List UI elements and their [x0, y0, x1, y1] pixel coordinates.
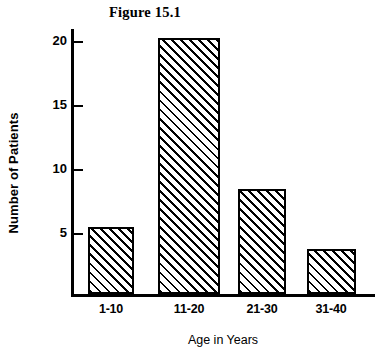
x-tick-label-11-20: 11-20	[149, 302, 229, 316]
y-tick-mark	[74, 233, 83, 235]
y-tick-mark	[74, 41, 83, 43]
y-axis-title-container: Number of Patients	[2, 78, 24, 268]
figure-container: Figure 15.1 Number of Patients 20 15 10 …	[0, 0, 385, 357]
y-axis-line	[71, 29, 74, 297]
y-axis-title: Number of Patients	[6, 113, 21, 234]
y-tick-label: 5	[60, 226, 67, 239]
y-tick-label: 15	[53, 98, 67, 111]
x-axis-title: Age in Years	[71, 333, 375, 347]
x-tick-label-1-10: 1-10	[71, 302, 151, 316]
y-tick-mark	[74, 169, 83, 171]
bar-31-40	[307, 249, 356, 294]
x-tick-label-21-30: 21-30	[222, 302, 302, 316]
bar-21-30	[238, 189, 286, 294]
bar-1-10	[88, 227, 134, 294]
chart-title: Figure 15.1	[0, 4, 290, 21]
x-axis-line	[71, 294, 375, 297]
y-tick-mark	[74, 105, 83, 107]
x-tick-label-31-40: 31-40	[291, 302, 371, 316]
y-tick-label: 10	[53, 162, 67, 175]
bar-11-20	[158, 38, 220, 294]
y-tick-label: 20	[53, 34, 67, 47]
